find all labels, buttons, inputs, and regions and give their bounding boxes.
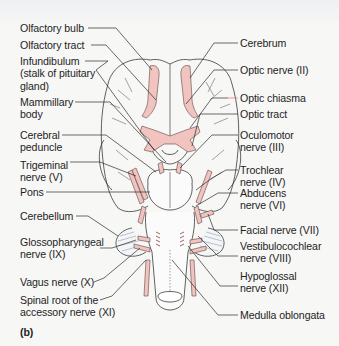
label-hypoglossal-nerve: Hypoglossal nerve (XII) [240, 270, 297, 295]
label-trigeminal-nerve: Trigeminal nerve (V) [20, 159, 68, 184]
label-glossopharyngeal-nerve: Glossopharyngeal nerve (IX) [20, 236, 104, 261]
label-cerebrum: Cerebrum [240, 37, 286, 49]
panel-label: (b) [20, 326, 33, 338]
label-trochlear-nerve: Trochlear nerve (IV) [240, 164, 286, 189]
label-oculomotor-nerve: Oculomotor nerve (III) [240, 129, 294, 154]
brain-inferior-view-figure: Olfactory bulb Olfactory tract Infundibu… [0, 0, 339, 346]
label-abducens-nerve: Abducens nerve (VI) [240, 187, 286, 212]
label-optic-chiasma: Optic chiasma [240, 92, 306, 104]
label-infundibulum: Infundibulum (stalk of pituitary gland) [20, 55, 95, 92]
brain-outline [99, 59, 240, 310]
label-spinal-accessory: Spinal root of the accessory nerve (XI) [20, 294, 115, 319]
label-mammillary-body: Mammillary body [20, 96, 73, 121]
label-vagus-nerve: Vagus nerve (X) [20, 276, 94, 288]
label-pons: Pons [20, 186, 44, 198]
label-cerebellum: Cerebellum [20, 210, 73, 222]
label-optic-nerve: Optic nerve (II) [240, 64, 308, 76]
label-olfactory-tract: Olfactory tract [20, 39, 84, 51]
label-optic-tract: Optic tract [240, 108, 287, 120]
label-vestibulocochlear-nerve: Vestibulocochlear nerve (VIII) [240, 240, 321, 265]
label-facial-nerve: Facial nerve (VII) [240, 224, 319, 236]
label-cerebral-peduncle: Cerebral peduncle [20, 129, 62, 154]
label-medulla-oblongata: Medulla oblongata [240, 309, 325, 321]
label-olfactory-bulb: Olfactory bulb [20, 22, 84, 34]
